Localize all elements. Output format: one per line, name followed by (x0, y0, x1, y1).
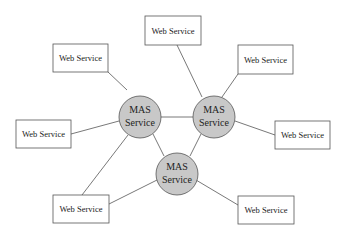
mas-service-bottom: MAS Service (156, 153, 198, 195)
web-service-label: Web Service (244, 55, 287, 65)
edge-ws-top-left-mas-left (108, 72, 127, 90)
web-service-bottom-left: Web Service (53, 195, 109, 223)
edge-mas-left-mas-bottom (153, 134, 164, 156)
edge-ws-bottom-left-mas-left (82, 135, 128, 195)
web-service-bottom-right: Web Service (238, 196, 294, 224)
mas-service-right: MAS Service (193, 96, 235, 138)
web-service-label: Web Service (281, 130, 324, 140)
edge-ws-bottom-left-mas-bottom (109, 180, 157, 204)
web-service-top-right: Web Service (238, 45, 293, 74)
web-service-top-left: Web Service (53, 44, 108, 72)
edge-ws-top-mas-right (177, 45, 202, 97)
mas-service-left: MAS Service (119, 96, 161, 138)
mas-label-line1: MAS (129, 104, 151, 115)
web-service-label: Web Service (22, 129, 65, 139)
web-service-left: Web Service (16, 120, 71, 148)
mas-label-line2: Service (199, 117, 230, 128)
edge-ws-left-mas-left (71, 121, 119, 134)
mas-label-line1: MAS (166, 161, 188, 172)
edge-ws-right-mas-right (235, 121, 275, 135)
web-service-label: Web Service (59, 53, 102, 63)
network-diagram: Web Service Web Service Web Service Web … (0, 0, 343, 240)
web-service-top: Web Service (145, 16, 201, 45)
diagram-canvas: Web Service Web Service Web Service Web … (0, 0, 343, 240)
web-service-label: Web Service (245, 205, 288, 215)
web-service-right: Web Service (275, 121, 330, 149)
edge-mas-right-mas-bottom (190, 134, 201, 156)
web-service-label: Web Service (60, 204, 103, 214)
web-service-label: Web Service (152, 26, 195, 36)
mas-label-line2: Service (162, 174, 193, 185)
mas-label-line1: MAS (203, 104, 225, 115)
mas-label-line2: Service (125, 117, 156, 128)
edge-ws-top-right-mas-right (222, 74, 238, 97)
edge-ws-bottom-right-mas-bottom (196, 180, 238, 205)
